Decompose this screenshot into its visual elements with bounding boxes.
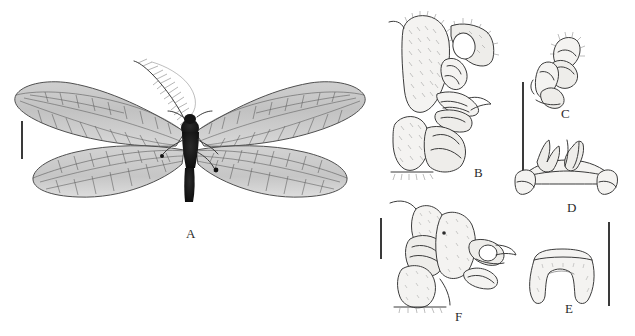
panel-label-e: E <box>565 301 573 317</box>
panel-c-gonocoxite <box>528 32 600 112</box>
wing-hindwing-left <box>33 146 184 197</box>
panel-b-genitalia <box>385 8 510 183</box>
panel-d-gonarcus <box>515 140 620 202</box>
figure-plate: A <box>0 0 635 336</box>
panel-label-a: A <box>186 226 196 242</box>
panel-label-d: D <box>567 200 577 216</box>
panel-label-b: B <box>474 165 483 181</box>
wing-forewing-left <box>15 82 185 147</box>
panel-e-ectoproct <box>522 248 607 308</box>
scale-bar-f <box>380 218 382 259</box>
scale-bar-a <box>21 121 23 159</box>
panel-a-habitus <box>0 40 380 240</box>
panel-f-genitalia <box>388 195 518 310</box>
wing-hindwing-right <box>196 146 347 197</box>
wing-forewing-right <box>195 82 365 147</box>
panel-label-f: F <box>455 309 463 325</box>
panel-label-c: C <box>561 106 570 122</box>
scale-bar-e <box>608 222 610 306</box>
